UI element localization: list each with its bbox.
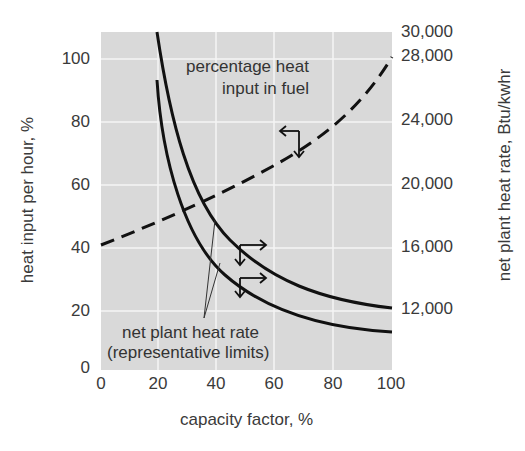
y-right-tick: 30,000 — [401, 22, 453, 42]
y-left-tick: 40 — [50, 238, 90, 258]
y-right-tick: 12,000 — [401, 299, 453, 319]
y-left-tick: 60 — [50, 175, 90, 195]
upper-curve-axis-arrow-icon — [235, 240, 266, 265]
heat-rate-label-line1: net plant heat rate — [122, 323, 259, 343]
y-left-axis-label: heat input per hour, % — [18, 110, 38, 290]
heat-rate-label-line2: (representative limits) — [107, 343, 270, 363]
y-right-tick: 16,000 — [401, 237, 453, 257]
x-tick: 0 — [81, 374, 121, 394]
x-axis-label: capacity factor, % — [180, 410, 313, 430]
fuel-curve-label-line1: percentage heat — [186, 57, 309, 77]
x-tick: 60 — [254, 374, 294, 394]
y-left-tick: 20 — [50, 301, 90, 321]
x-tick: 20 — [138, 374, 178, 394]
y-left-tick: 80 — [50, 112, 90, 132]
y-right-tick: 20,000 — [401, 174, 453, 194]
x-tick: 80 — [313, 374, 353, 394]
y-right-tick: 28,000 — [401, 46, 453, 66]
y-right-tick: 24,000 — [401, 110, 453, 130]
fuel-axis-arrow-icon — [280, 126, 304, 157]
x-tick: 100 — [371, 374, 411, 394]
x-tick: 40 — [196, 374, 236, 394]
y-left-tick: 100 — [50, 49, 90, 69]
y-right-axis-label: net plant heat rate, Btu/kwhr — [495, 60, 515, 290]
fuel-curve-label-line2: input in fuel — [222, 79, 309, 99]
